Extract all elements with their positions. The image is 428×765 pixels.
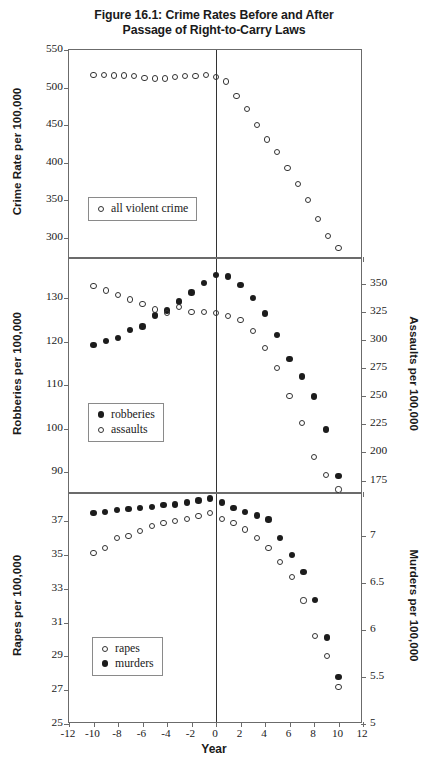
y-tick-left (64, 200, 69, 201)
legend-label: rapes (111, 641, 140, 656)
y-tick-label-right: 5.5 (370, 669, 404, 681)
data-point-murders (242, 509, 248, 515)
data-point-robberies (115, 335, 121, 341)
data-point-murders (219, 499, 225, 505)
x-tick (363, 492, 364, 497)
data-point-assaults (262, 345, 268, 351)
data-point-all-violent-crime (203, 72, 209, 78)
data-point-assaults (139, 301, 145, 307)
y-axis-title-murders: Murders per 100,000 (408, 491, 421, 721)
y-tick-label-right: 7 (370, 528, 404, 540)
y-tick-right (361, 396, 366, 397)
panel-robberies-assaults: 90100110120130 175200225250275300325350 (68, 258, 362, 493)
data-point-assaults (286, 393, 292, 399)
y-tick-left (64, 690, 69, 691)
y-tick-label-right: 275 (370, 360, 404, 372)
data-point-murders (195, 497, 201, 503)
y-tick-left (64, 125, 69, 126)
data-point-all-violent-crime (335, 245, 341, 251)
data-point-all-violent-crime (264, 136, 270, 142)
data-point-murders (300, 569, 306, 575)
data-point-murders (114, 507, 120, 513)
data-point-murders (172, 501, 178, 507)
data-point-assaults (176, 304, 182, 310)
data-point-rapes (90, 550, 96, 556)
y-tick-left (64, 623, 69, 624)
data-point-murders (289, 552, 295, 558)
y-tick-label-right: 175 (370, 473, 404, 485)
data-point-rapes (335, 684, 341, 690)
data-point-assaults (152, 306, 158, 312)
data-point-all-violent-crime (182, 73, 188, 79)
data-point-rapes (289, 574, 295, 580)
data-point-rapes (277, 559, 283, 565)
y-tick-label-right: 6 (370, 622, 404, 634)
data-point-robberies (225, 273, 231, 279)
data-point-murders (277, 535, 283, 541)
data-point-murders (324, 634, 330, 640)
data-point-assaults (323, 472, 329, 478)
y-tick-right (361, 368, 366, 369)
data-point-all-violent-crime (121, 72, 127, 78)
data-point-robberies (188, 289, 194, 295)
filled-circle-icon (95, 411, 107, 418)
legend-panel2: robberiesassaults (88, 403, 164, 442)
data-point-assaults (103, 287, 109, 293)
data-point-rapes (172, 518, 178, 524)
y-tick-label-right: 300 (370, 332, 404, 344)
data-point-robberies (299, 373, 305, 379)
y-tick-left (64, 589, 69, 590)
data-point-robberies (127, 327, 133, 333)
data-point-robberies (139, 323, 145, 329)
data-point-rapes (160, 520, 166, 526)
legend-item: rapes (99, 641, 154, 656)
y-tick-label-left: 300 (23, 230, 63, 242)
data-point-robberies (237, 282, 243, 288)
filled-circle-icon (99, 660, 111, 667)
data-point-robberies (90, 342, 96, 348)
data-point-rapes (125, 533, 131, 539)
data-point-rapes (254, 535, 260, 541)
data-point-rapes (312, 633, 318, 639)
y-tick-label-left: 450 (23, 117, 63, 129)
y-tick-label-left: 37 (23, 513, 63, 525)
data-point-assaults (164, 310, 170, 316)
y-tick-right (361, 481, 366, 482)
legend-label: murders (111, 656, 154, 671)
data-point-robberies (213, 272, 219, 278)
zero-reference-line-panel1 (216, 50, 217, 257)
data-point-robberies (103, 338, 109, 344)
data-point-rapes (207, 510, 213, 516)
data-point-murders (90, 510, 96, 516)
y-tick-left (64, 555, 69, 556)
data-point-rapes (114, 535, 120, 541)
data-point-robberies (262, 310, 268, 316)
open-circle-icon (99, 646, 111, 652)
data-point-robberies (323, 426, 329, 432)
data-point-murders (137, 505, 143, 511)
y-tick-left (64, 429, 69, 430)
y-tick-label-left: 120 (23, 334, 63, 346)
open-circle-icon (95, 206, 107, 212)
y-tick-label-left: 500 (23, 80, 63, 92)
y-tick-left (64, 656, 69, 657)
data-point-murders (125, 506, 131, 512)
x-tick-label: 12 (347, 727, 377, 739)
data-point-assaults (127, 296, 133, 302)
figure-title-line-2: Passage of Right-to-Carry Laws (0, 23, 428, 38)
data-point-rapes (265, 545, 271, 551)
data-point-all-violent-crime (152, 75, 158, 81)
data-point-murders (335, 674, 341, 680)
panel-violent-crime: 300350400450500550 (68, 49, 362, 258)
zero-reference-line-panel3 (216, 494, 217, 722)
data-point-rapes (102, 545, 108, 551)
data-point-rapes (195, 513, 201, 519)
figure-container: Figure 16.1: Crime Rates Before and Afte… (0, 0, 428, 765)
data-point-rapes (184, 516, 190, 522)
y-tick-left (64, 342, 69, 343)
legend-item: assaults (95, 422, 155, 437)
legend-label: robberies (107, 407, 155, 422)
data-point-murders (184, 499, 190, 505)
y-tick-label-left: 130 (23, 290, 63, 302)
y-tick-left (64, 163, 69, 164)
